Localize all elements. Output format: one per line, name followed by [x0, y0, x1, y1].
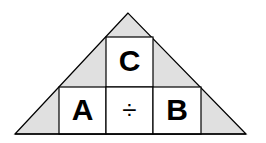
label-b: B [153, 93, 201, 127]
divide-symbol: ÷ [106, 95, 153, 126]
label-a: A [59, 93, 106, 127]
label-c: C [106, 44, 153, 78]
